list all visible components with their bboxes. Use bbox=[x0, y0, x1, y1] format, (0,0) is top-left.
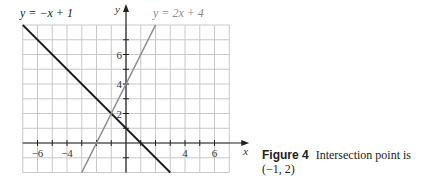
x-tick-label: 6 bbox=[212, 147, 218, 159]
x-tick-label: 4 bbox=[182, 147, 188, 159]
line2-label: y = 2x + 4 bbox=[152, 6, 204, 20]
x-axis-label: x bbox=[242, 145, 248, 157]
y-tick-label: 4 bbox=[117, 78, 123, 90]
chart-plot: −6−446246xyy = −x + 1y = 2x + 4 bbox=[0, 0, 260, 191]
line1-label: y = −x + 1 bbox=[19, 6, 73, 20]
y-tick-label: 6 bbox=[117, 49, 123, 61]
y-axis-label: y bbox=[114, 3, 120, 15]
figure-number: Figure 4 bbox=[262, 148, 309, 162]
y-axis-arrow-icon bbox=[123, 4, 129, 12]
x-tick-label: −4 bbox=[61, 147, 73, 159]
x-tick-label: −6 bbox=[32, 147, 44, 159]
y-tick-label: 2 bbox=[117, 108, 123, 120]
figure-caption: Figure 4 Intersection point is (−1, 2) bbox=[262, 148, 428, 176]
